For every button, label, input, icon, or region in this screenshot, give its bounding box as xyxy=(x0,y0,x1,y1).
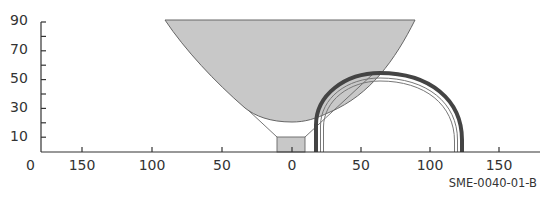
x-tick-label: 150 xyxy=(69,157,96,173)
x-tick-label: 100 xyxy=(417,157,444,173)
figure-code-label: SME-0040-01-B xyxy=(449,176,537,190)
y-tick-label: 70 xyxy=(10,41,28,57)
y-tick-label: 30 xyxy=(10,99,28,115)
x-tick-label: 50 xyxy=(213,157,231,173)
x-tick-label: 0 xyxy=(288,157,297,173)
y-tick-label: 50 xyxy=(10,70,28,86)
y-tick-label: 0 xyxy=(26,157,35,173)
bowl-shape xyxy=(165,20,415,122)
base-rect xyxy=(277,137,305,152)
y-tick-label: 90 xyxy=(10,12,28,28)
x-tick-label: 100 xyxy=(139,157,166,173)
arch-shape xyxy=(316,73,462,152)
y-axis xyxy=(41,22,46,152)
x-tick-label: 50 xyxy=(352,157,370,173)
y-tick-label: 10 xyxy=(10,128,28,144)
x-tick-label: 150 xyxy=(486,157,513,173)
diagram-canvas: 90 70 50 30 10 0 150 100 50 0 50 100 150… xyxy=(0,0,550,205)
